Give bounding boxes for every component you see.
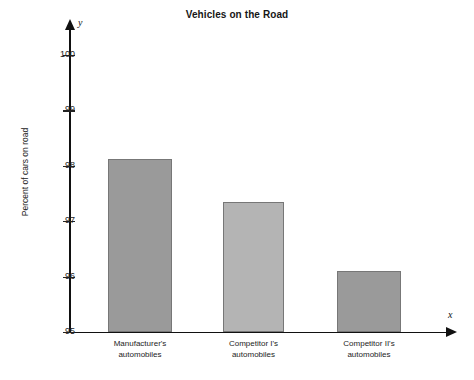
y-tick-label: 97 — [49, 215, 75, 225]
y-axis-arrow-icon — [65, 19, 75, 30]
category-label-line: automobiles — [80, 349, 200, 360]
bar-1[interactable] — [223, 202, 284, 332]
y-tick-label: 98 — [49, 160, 75, 170]
x-axis-name: x — [448, 309, 452, 320]
category-label-2: Competitor II'sautomobiles — [309, 338, 429, 360]
y-tick-label: 100 — [49, 49, 75, 59]
bar-chart: Vehicles on the Road Percent of cars on … — [0, 0, 474, 380]
category-label-line: Competitor I's — [194, 338, 314, 349]
y-tick-label: 95 — [49, 326, 75, 336]
category-label-line: Manufacturer's — [80, 338, 200, 349]
x-axis-arrow-icon — [446, 327, 457, 337]
category-label-line: automobiles — [194, 349, 314, 360]
category-label-0: Manufacturer'sautomobiles — [80, 338, 200, 360]
y-axis-name: y — [78, 17, 82, 28]
category-label-line: automobiles — [309, 349, 429, 360]
y-axis-label: Percent of cars on road — [20, 112, 30, 232]
y-tick-label: 96 — [49, 271, 75, 281]
bar-0[interactable] — [108, 159, 172, 332]
category-label-1: Competitor I'sautomobiles — [194, 338, 314, 360]
bar-2[interactable] — [337, 271, 401, 332]
category-label-line: Competitor II's — [309, 338, 429, 349]
y-axis-line — [69, 28, 71, 333]
y-tick-label: 99 — [49, 104, 75, 114]
